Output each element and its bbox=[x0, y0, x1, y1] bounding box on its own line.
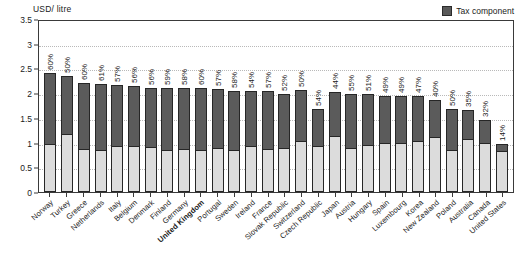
bar-segment-tax-component[interactable] bbox=[362, 94, 374, 145]
bar-segment-pretax-component[interactable] bbox=[61, 134, 73, 192]
bar-segment-pretax-component[interactable] bbox=[245, 146, 257, 192]
bar-segment-pretax-component[interactable] bbox=[312, 146, 324, 192]
bar-column[interactable]: 54% bbox=[243, 21, 260, 192]
stacked-bar[interactable]: 60% bbox=[44, 73, 56, 192]
bar-column[interactable]: 35% bbox=[460, 21, 477, 192]
bar-segment-tax-component[interactable] bbox=[379, 96, 391, 143]
bar-segment-pretax-component[interactable] bbox=[95, 150, 107, 192]
bar-column[interactable]: 44% bbox=[326, 21, 343, 192]
bar-segment-tax-component[interactable] bbox=[446, 109, 458, 151]
bar-segment-tax-component[interactable] bbox=[61, 76, 73, 134]
bar-segment-pretax-component[interactable] bbox=[44, 144, 56, 192]
stacked-bar[interactable]: 44% bbox=[329, 92, 341, 192]
bar-segment-pretax-component[interactable] bbox=[111, 146, 123, 192]
stacked-bar[interactable]: 35% bbox=[462, 110, 474, 192]
bar-segment-tax-component[interactable] bbox=[161, 88, 173, 149]
stacked-bar[interactable]: 58% bbox=[228, 91, 240, 192]
bar-column[interactable]: 56% bbox=[126, 21, 143, 192]
stacked-bar[interactable]: 57% bbox=[262, 91, 274, 192]
bar-segment-tax-component[interactable] bbox=[496, 144, 508, 151]
bar-segment-tax-component[interactable] bbox=[228, 91, 240, 149]
bar-segment-tax-component[interactable] bbox=[429, 100, 441, 137]
bar-segment-pretax-component[interactable] bbox=[195, 150, 207, 192]
bar-column[interactable]: 49% bbox=[376, 21, 393, 192]
bar-segment-pretax-component[interactable] bbox=[345, 148, 357, 192]
bar-segment-pretax-component[interactable] bbox=[161, 150, 173, 193]
bar-column[interactable]: 60% bbox=[75, 21, 92, 192]
bar-column[interactable]: 57% bbox=[109, 21, 126, 192]
stacked-bar[interactable]: 55% bbox=[345, 94, 357, 192]
stacked-bar[interactable]: 57% bbox=[111, 85, 123, 192]
bar-column[interactable]: 51% bbox=[360, 21, 377, 192]
bar-column[interactable]: 49% bbox=[393, 21, 410, 192]
bar-segment-tax-component[interactable] bbox=[44, 73, 56, 144]
stacked-bar[interactable]: 51% bbox=[362, 94, 374, 192]
stacked-bar[interactable]: 58% bbox=[178, 88, 190, 192]
stacked-bar[interactable]: 32% bbox=[479, 120, 491, 192]
bar-segment-tax-component[interactable] bbox=[111, 85, 123, 146]
bar-segment-tax-component[interactable] bbox=[312, 109, 324, 146]
bar-segment-pretax-component[interactable] bbox=[362, 145, 374, 192]
bar-column[interactable]: 60% bbox=[42, 21, 59, 192]
bar-segment-pretax-component[interactable] bbox=[395, 143, 407, 192]
bar-column[interactable]: 47% bbox=[410, 21, 427, 192]
bar-segment-pretax-component[interactable] bbox=[429, 137, 441, 192]
stacked-bar[interactable]: 49% bbox=[395, 96, 407, 192]
bar-segment-tax-component[interactable] bbox=[278, 94, 290, 147]
bar-segment-pretax-component[interactable] bbox=[145, 147, 157, 192]
stacked-bar[interactable]: 60% bbox=[195, 88, 207, 192]
stacked-bar[interactable]: 59% bbox=[161, 88, 173, 192]
bar-segment-tax-component[interactable] bbox=[178, 88, 190, 148]
stacked-bar[interactable]: 54% bbox=[312, 109, 324, 192]
bar-segment-tax-component[interactable] bbox=[195, 88, 207, 150]
stacked-bar[interactable]: 56% bbox=[128, 86, 140, 192]
bar-column[interactable]: 50% bbox=[293, 21, 310, 192]
bar-segment-pretax-component[interactable] bbox=[412, 141, 424, 192]
bar-segment-pretax-component[interactable] bbox=[295, 141, 307, 192]
bar-segment-tax-component[interactable] bbox=[395, 96, 407, 143]
bar-column[interactable]: 59% bbox=[159, 21, 176, 192]
stacked-bar[interactable]: 56% bbox=[145, 88, 157, 192]
stacked-bar[interactable]: 54% bbox=[245, 91, 257, 192]
bar-column[interactable]: 50% bbox=[443, 21, 460, 192]
bar-segment-pretax-component[interactable] bbox=[496, 151, 508, 192]
bar-column[interactable]: 54% bbox=[310, 21, 327, 192]
stacked-bar[interactable]: 49% bbox=[379, 96, 391, 192]
bar-segment-tax-component[interactable] bbox=[412, 96, 424, 141]
bar-segment-tax-component[interactable] bbox=[128, 86, 140, 145]
bar-segment-tax-component[interactable] bbox=[95, 84, 107, 150]
bar-segment-pretax-component[interactable] bbox=[278, 148, 290, 192]
bar-segment-tax-component[interactable] bbox=[262, 91, 274, 149]
bar-segment-tax-component[interactable] bbox=[295, 90, 307, 141]
stacked-bar[interactable]: 50% bbox=[446, 109, 458, 192]
bar-segment-pretax-component[interactable] bbox=[128, 146, 140, 192]
bar-column[interactable]: 55% bbox=[343, 21, 360, 192]
bar-column[interactable]: 60% bbox=[192, 21, 209, 192]
bar-segment-tax-component[interactable] bbox=[462, 110, 474, 139]
bar-segment-pretax-component[interactable] bbox=[329, 136, 341, 192]
bar-segment-pretax-component[interactable] bbox=[379, 143, 391, 192]
bar-segment-tax-component[interactable] bbox=[345, 94, 357, 148]
bar-segment-tax-component[interactable] bbox=[479, 120, 491, 143]
stacked-bar[interactable]: 50% bbox=[61, 76, 73, 192]
bar-column[interactable]: 61% bbox=[92, 21, 109, 192]
bar-column[interactable]: 57% bbox=[259, 21, 276, 192]
bar-column[interactable]: 14% bbox=[493, 21, 510, 192]
stacked-bar[interactable]: 52% bbox=[278, 94, 290, 192]
stacked-bar[interactable]: 57% bbox=[212, 89, 224, 192]
bar-column[interactable]: 32% bbox=[477, 21, 494, 192]
bar-segment-pretax-component[interactable] bbox=[446, 150, 458, 192]
bar-segment-tax-component[interactable] bbox=[245, 91, 257, 146]
bar-column[interactable]: 56% bbox=[142, 21, 159, 192]
stacked-bar[interactable]: 61% bbox=[95, 84, 107, 192]
stacked-bar[interactable]: 60% bbox=[78, 83, 90, 192]
bar-column[interactable]: 40% bbox=[427, 21, 444, 192]
stacked-bar[interactable]: 14% bbox=[496, 144, 508, 192]
bar-segment-pretax-component[interactable] bbox=[212, 148, 224, 192]
bar-column[interactable]: 58% bbox=[176, 21, 193, 192]
stacked-bar[interactable]: 40% bbox=[429, 100, 441, 192]
bar-segment-pretax-component[interactable] bbox=[178, 149, 190, 192]
stacked-bar[interactable]: 50% bbox=[295, 90, 307, 192]
bar-segment-tax-component[interactable] bbox=[145, 88, 157, 146]
bar-segment-tax-component[interactable] bbox=[78, 83, 90, 148]
